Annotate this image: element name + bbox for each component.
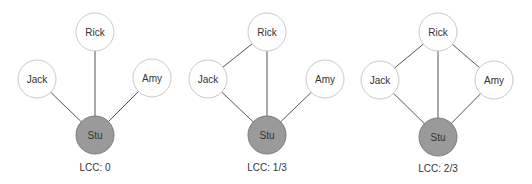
node-label: Jack bbox=[27, 74, 49, 85]
node-label: Amy bbox=[315, 74, 335, 85]
node-label: Jack bbox=[370, 75, 392, 86]
node-label: Amy bbox=[142, 73, 162, 84]
node-amy-panel-1: Amy bbox=[133, 59, 171, 97]
node-label: Amy bbox=[484, 75, 504, 86]
node-label: Stu bbox=[430, 132, 445, 143]
node-label: Rick bbox=[257, 27, 277, 38]
node-label: Jack bbox=[198, 74, 220, 85]
node-stu-panel-3: Stu bbox=[419, 118, 457, 156]
nodes-layer: RickJackAmyStuRickJackAmyStuRickJackAmyS… bbox=[18, 13, 513, 156]
node-label: Stu bbox=[259, 130, 274, 141]
node-jack-panel-2: Jack bbox=[189, 60, 227, 98]
lcc-label-panel-1: LCC: 0 bbox=[79, 162, 111, 173]
labels-layer: LCC: 0 LCC: 1/3 LCC: 2/3 bbox=[79, 162, 458, 174]
node-rick-panel-2: Rick bbox=[248, 13, 286, 51]
node-amy-panel-2: Amy bbox=[306, 60, 344, 98]
node-stu-panel-1: Stu bbox=[76, 116, 114, 154]
node-label: Rick bbox=[85, 27, 105, 38]
node-rick-panel-3: Rick bbox=[419, 13, 457, 51]
node-rick-panel-1: Rick bbox=[76, 13, 114, 51]
node-amy-panel-3: Amy bbox=[475, 61, 513, 99]
lcc-label-panel-2: LCC: 1/3 bbox=[247, 162, 287, 173]
node-stu-panel-2: Stu bbox=[248, 116, 286, 154]
node-label: Rick bbox=[428, 27, 448, 38]
node-label: Stu bbox=[87, 130, 102, 141]
lcc-diagram: RickJackAmyStuRickJackAmyStuRickJackAmyS… bbox=[0, 0, 532, 184]
node-jack-panel-1: Jack bbox=[18, 60, 56, 98]
node-jack-panel-3: Jack bbox=[361, 61, 399, 99]
lcc-label-panel-3: LCC: 2/3 bbox=[418, 163, 458, 174]
